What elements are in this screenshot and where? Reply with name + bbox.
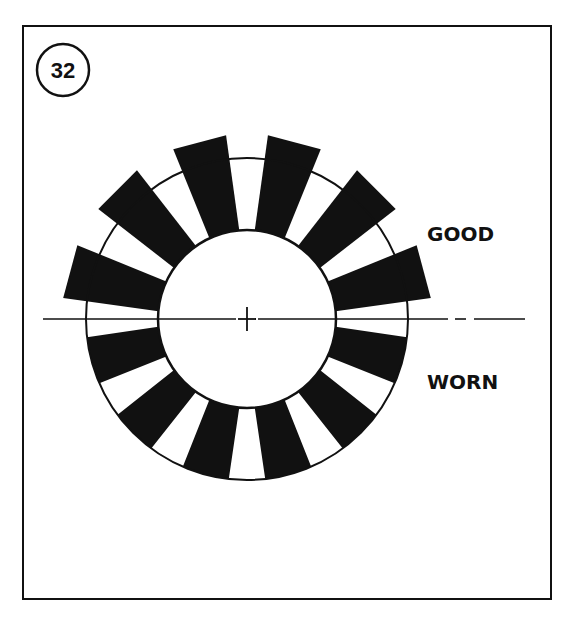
good-brush-segment [328, 245, 431, 311]
worn-brush-segment [255, 400, 311, 479]
figure-number: 32 [51, 58, 75, 83]
good-label: GOOD [427, 222, 494, 246]
worn-brush-segment [328, 327, 407, 383]
good-brush-segment [298, 170, 396, 268]
brush-wear-diagram: 32 GOOD WORN [0, 0, 569, 617]
good-brush-segment [255, 135, 321, 238]
good-brush-segment [98, 170, 196, 268]
worn-brush-segment [183, 400, 239, 479]
worn-label: WORN [427, 370, 498, 394]
figure-number-badge: 32 [37, 44, 89, 96]
good-brush-segment [63, 245, 166, 311]
good-brush-segment [173, 135, 239, 238]
worn-brush-segment [87, 327, 166, 383]
